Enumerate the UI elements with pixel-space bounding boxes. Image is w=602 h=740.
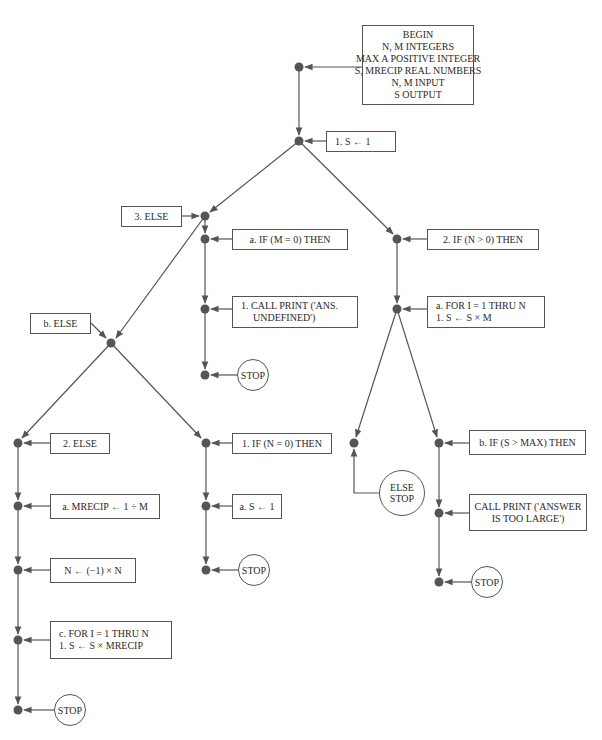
for-loop-multiply-m-box: a. FOR I = 1 THRU N 1. S ← S × M — [427, 296, 545, 328]
if-m-zero-box: a. IF (M = 0) THEN — [232, 229, 348, 250]
begin-declarations-box: BEGIN N, M INTEGERS MAX A POSITIVE INTEG… — [362, 25, 474, 105]
box-line: b. ELSE — [44, 318, 78, 330]
terminal-label: STOP — [390, 493, 414, 504]
stop-terminal: STOP — [471, 566, 503, 598]
else-stop-terminal: ELSE STOP — [379, 470, 425, 516]
box-line: N, M INTEGERS — [382, 41, 454, 53]
box-line: 1. S ← 1 — [335, 136, 371, 148]
terminal-label: STOP — [241, 370, 265, 381]
box-line: N ← (−1) × N — [64, 565, 121, 577]
if-n-zero-box: 1. IF (N = 0) THEN — [232, 433, 332, 454]
for-loop-multiply-mrecip-box: c. FOR I = 1 THRU N 1. S ← S × MRECIP — [50, 621, 172, 659]
call-print-too-large-box: CALL PRINT ('ANSWER IS TOO LARGE') — [469, 494, 587, 531]
negate-n-box: N ← (−1) × N — [50, 558, 136, 583]
step3-else-box: 3. ELSE — [121, 206, 182, 227]
box-line: 1. S ← S × M — [436, 312, 492, 324]
box-line: a. S ← 1 — [240, 501, 275, 513]
junction-nodes — [14, 63, 444, 715]
box-line: N, M INPUT — [391, 77, 444, 89]
box-line: a. IF (M = 0) THEN — [249, 234, 330, 246]
box-line: b. IF (S > MAX) THEN — [479, 437, 576, 449]
step-b-else-box: b. ELSE — [30, 313, 91, 334]
step1-s-assign-box: 1. S ← 1 — [326, 131, 396, 152]
box-line: a. MRECIP ← 1 ÷ M — [62, 501, 148, 513]
terminal-label: ELSE — [390, 482, 414, 493]
box-line: MAX A POSITIVE INTEGER — [356, 53, 480, 65]
if-n-positive-box: 2. IF (N > 0) THEN — [427, 229, 539, 250]
terminal-label: STOP — [475, 577, 499, 588]
if-s-exceeds-max-box: b. IF (S > MAX) THEN — [469, 430, 586, 455]
stop-terminal: STOP — [237, 359, 269, 391]
stop-terminal: STOP — [238, 554, 270, 586]
s-assign-one-box: a. S ← 1 — [232, 494, 282, 519]
mrecip-assign-box: a. MRECIP ← 1 ÷ M — [50, 494, 160, 519]
box-line: IS TOO LARGE') — [492, 513, 565, 525]
terminal-label: STOP — [242, 565, 266, 576]
box-line: CALL PRINT ('ANSWER — [475, 501, 582, 513]
box-line: a. FOR I = 1 THRU N — [436, 300, 526, 312]
box-line: S, MRECIP REAL NUMBERS — [355, 65, 482, 77]
step2-else-box: 2. ELSE — [50, 433, 110, 454]
stop-terminal: STOP — [54, 694, 86, 726]
box-line: BEGIN — [403, 29, 434, 41]
call-print-ans-undefined-box: 1. CALL PRINT ('ANS. UNDEFINED') — [232, 296, 358, 328]
terminal-label: STOP — [58, 705, 82, 716]
flowchart-canvas: BEGIN N, M INTEGERS MAX A POSITIVE INTEG… — [0, 0, 602, 740]
box-line: 1. S ← S × MRECIP — [59, 640, 143, 652]
box-line: UNDEFINED') — [241, 312, 315, 324]
box-line: c. FOR I = 1 THRU N — [59, 628, 149, 640]
box-line: S OUTPUT — [394, 89, 442, 101]
box-line: 1. IF (N = 0) THEN — [242, 438, 322, 450]
box-line: 2. ELSE — [63, 438, 97, 450]
box-line: 2. IF (N > 0) THEN — [443, 234, 523, 246]
box-line: 1. CALL PRINT ('ANS. — [241, 300, 338, 312]
box-line: 3. ELSE — [135, 211, 169, 223]
